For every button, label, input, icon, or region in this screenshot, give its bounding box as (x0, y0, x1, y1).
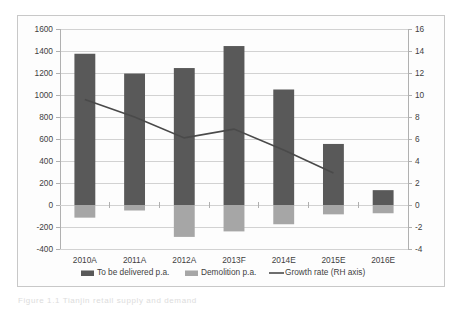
right-axis-tick-label: 10 (415, 90, 425, 100)
legend-label: Demolition p.a. (201, 267, 256, 277)
bar-series (74, 205, 393, 237)
chart-canvas: 16001400120010008006004002000-200-400161… (18, 16, 444, 286)
category-label: 2016E (371, 255, 395, 265)
right-axis: 1614121086420-2-4 (408, 24, 425, 254)
left-axis-tick-label: 1000 (35, 90, 54, 100)
chart-bar (74, 54, 95, 205)
legend-swatch (81, 271, 94, 277)
right-axis-tick-label: 4 (415, 156, 420, 166)
chart-bar (373, 205, 394, 213)
chart-bar (174, 205, 195, 237)
left-axis-tick-label: 200 (39, 178, 53, 188)
left-axis-tick-label: 800 (39, 112, 53, 122)
right-axis-tick-label: 6 (415, 134, 420, 144)
chart-legend: To be delivered p.a.Demolition p.a.Growt… (81, 267, 365, 277)
right-axis-tick-label: 0 (415, 200, 420, 210)
chart-frame: 16001400120010008006004002000-200-400161… (17, 15, 445, 287)
chart-bar (74, 205, 95, 218)
category-label: 2010A (73, 255, 97, 265)
left-axis-tick-label: 600 (39, 134, 53, 144)
figure-caption: Figure 1.1 Tianjin retail supply and dem… (18, 296, 318, 308)
chart-bar (373, 190, 394, 205)
chart-bar (323, 205, 344, 214)
left-axis-tick-label: -200 (36, 222, 53, 232)
chart-bar (124, 74, 145, 205)
legend-swatch (185, 271, 198, 277)
category-label: 2012A (172, 255, 196, 265)
chart-bar (224, 205, 245, 231)
category-label: 2011A (123, 255, 147, 265)
chart-plot-area: 16001400120010008006004002000-200-400161… (18, 16, 444, 286)
right-axis-tick-label: 16 (415, 24, 425, 34)
growth-rate-line (85, 99, 334, 173)
category-axis-labels: 2010A2011A2012A2013F2014E2015E2016E (73, 255, 396, 265)
category-label: 2015E (321, 255, 345, 265)
legend-label: To be delivered p.a. (97, 267, 169, 277)
chart-bar (224, 46, 245, 205)
left-axis-tick-label: 400 (39, 156, 53, 166)
category-label: 2014E (272, 255, 296, 265)
right-axis-tick-label: 2 (415, 178, 420, 188)
right-axis-tick-label: -2 (415, 222, 423, 232)
right-axis-tick-label: 14 (415, 46, 425, 56)
left-axis-tick-label: 0 (48, 200, 53, 210)
left-axis: 16001400120010008006004002000-200-400 (35, 24, 60, 254)
chart-bar (124, 205, 145, 211)
left-axis-tick-label: -400 (36, 244, 53, 254)
left-axis-tick-label: 1400 (35, 46, 54, 56)
left-axis-tick-label: 1200 (35, 68, 54, 78)
right-axis-tick-label: -4 (415, 244, 423, 254)
bar-series (74, 46, 393, 205)
right-axis-tick-label: 8 (415, 112, 420, 122)
left-axis-tick-label: 1600 (35, 24, 54, 34)
chart-bar (273, 205, 294, 224)
right-axis-tick-label: 12 (415, 68, 425, 78)
legend-label: Growth rate (RH axis) (285, 267, 365, 277)
chart-bar (323, 144, 344, 205)
category-label: 2013F (222, 255, 246, 265)
